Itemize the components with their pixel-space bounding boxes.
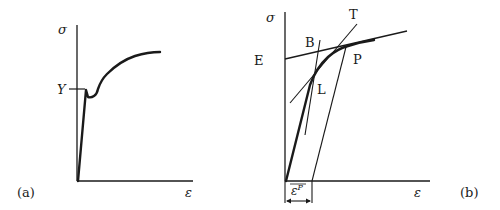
arrowhead-left-icon [286, 199, 291, 204]
panel-b-unloading-line [312, 47, 346, 181]
panel-b-point-P: P [353, 52, 362, 67]
panel-b-point-T: T [349, 7, 358, 22]
panel-a-yield-label: Y [57, 82, 67, 97]
arrowhead-right-icon [306, 199, 311, 204]
panel-b-label: (b) [460, 185, 478, 200]
panel-b-plastic-strain-label: εP [291, 183, 303, 198]
panel-b-point-E: E [254, 53, 264, 68]
panel-a-label: (a) [17, 185, 35, 200]
panel-b-point-B: B [305, 35, 315, 50]
diagram-canvas: σ Y ε (a) σ E B T P L εP ε (b) [0, 0, 500, 210]
panel-a-y-axis-label: σ [58, 22, 68, 37]
panel-b-x-axis-label: ε [414, 185, 421, 200]
panel-b-line-EP [285, 31, 407, 59]
panel-b-point-L: L [317, 82, 326, 97]
panel-a-stress-strain-curve [78, 52, 160, 181]
panel-b-y-axis-label: σ [266, 10, 276, 25]
panel-b: σ E B T P L εP ε (b) [254, 7, 478, 204]
panel-a-x-axis-label: ε [185, 185, 192, 200]
panel-a: σ Y ε (a) [17, 22, 193, 200]
